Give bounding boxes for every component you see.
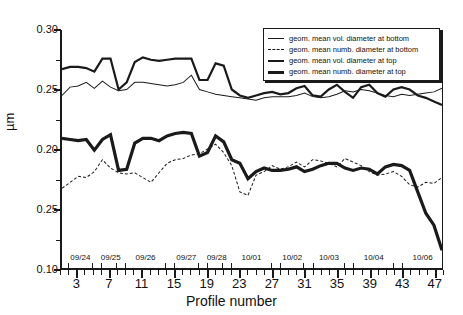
x-minor-tick [60,270,61,275]
x-minor-tick [223,270,224,275]
legend-label: geom. mean vol. diameter at top [289,56,397,65]
date-bracket [207,263,223,270]
x-tick-label: 39 [355,276,385,291]
date-bracket-group: 09/2409/2509/2609/2709/2810/0110/0210/03… [60,244,443,270]
x-tick-label: 3 [61,276,91,291]
legend-key-icon [267,55,285,65]
x-minor-tick [394,270,395,275]
x-tick-label: 35 [322,276,352,291]
x-tick-label: 19 [192,276,222,291]
series-line [62,132,442,250]
x-tick-label: 47 [420,276,450,291]
y-tick-label: 0.10 [37,264,58,275]
date-bracket-label: 09/25 [101,253,117,262]
x-minor-tick [321,270,322,275]
x-minor-tick [313,270,314,275]
date-bracket [101,263,117,270]
date-bracket [313,263,346,270]
x-tick-label: 23 [224,276,254,291]
y-axis-ticks: 0.300.250.200.250.10 [0,0,58,315]
date-bracket [231,263,272,270]
date-bracket [402,263,443,270]
x-minor-tick [427,270,428,275]
x-minor-tick [264,270,265,275]
date-bracket-label: 10/06 [402,253,443,262]
legend-item: geom. mean vol. diameter at bottom [267,33,435,43]
x-minor-tick [329,270,330,275]
x-minor-tick [215,270,216,275]
y-tick-label: 0.20 [37,144,58,155]
x-minor-tick [166,270,167,275]
x-tick-label: 11 [126,276,156,291]
x-minor-tick [101,270,102,275]
x-minor-tick [84,270,85,275]
x-minor-tick [93,270,94,275]
x-axis-title: Profile number [0,293,463,309]
legend-label: geom. mean numb. diameter at top [289,67,406,76]
legend-label: geom. mean vol. diameter at bottom [289,34,409,43]
date-bracket-label: 10/01 [231,253,272,262]
x-tick-label: 31 [289,276,319,291]
x-minor-tick [231,270,232,275]
x-minor-tick [256,270,257,275]
x-minor-tick [410,270,411,275]
date-bracket-label: 10/02 [280,253,304,262]
legend-label: geom. mean numb. diameter at bottom [289,45,418,54]
x-minor-tick [288,270,289,275]
x-minor-tick [362,270,363,275]
x-minor-tick [68,270,69,275]
x-minor-tick [117,270,118,275]
x-minor-tick [247,270,248,275]
legend-item: geom. mean numb. diameter at bottom [267,44,435,54]
x-tick-label: 27 [257,276,287,291]
x-minor-tick [345,270,346,275]
date-bracket-label: 10/04 [353,253,394,262]
x-minor-tick [280,270,281,275]
legend-key-icon [267,66,285,76]
x-minor-tick [296,270,297,275]
chart-figure: µm 0.300.250.200.250.10 09/2409/2509/260… [0,0,463,315]
date-bracket-label: 10/03 [313,253,346,262]
x-tick-label: 43 [387,276,417,291]
legend-key-icon [267,44,285,54]
x-minor-tick [378,270,379,275]
chart-legend: geom. mean vol. diameter at bottomgeom. … [263,28,440,81]
legend-item: geom. mean numb. diameter at top [267,66,435,76]
date-bracket-label: 09/24 [68,253,92,262]
x-minor-tick [443,270,444,275]
x-minor-tick [158,270,159,275]
x-minor-tick [353,270,354,275]
date-bracket [125,263,166,270]
x-minor-tick [125,270,126,275]
y-tick-label: 0.30 [37,24,58,35]
date-bracket-label: 09/27 [174,253,198,262]
y-tick-label: 0.25 [37,204,58,215]
x-minor-tick [190,270,191,275]
x-minor-tick [150,270,151,275]
date-bracket [174,263,198,270]
legend-key-icon [267,33,285,43]
x-minor-tick [199,270,200,275]
x-tick-label: 15 [159,276,189,291]
x-tick-label: 7 [94,276,124,291]
date-bracket [353,263,394,270]
date-bracket-label: 09/26 [125,253,166,262]
x-minor-tick [133,270,134,275]
x-minor-tick [419,270,420,275]
x-minor-tick [386,270,387,275]
date-bracket [68,263,92,270]
y-tick-label: 0.25 [37,84,58,95]
date-bracket [280,263,304,270]
legend-item: geom. mean vol. diameter at top [267,55,435,65]
date-bracket-label: 09/28 [207,253,223,262]
x-minor-tick [182,270,183,275]
